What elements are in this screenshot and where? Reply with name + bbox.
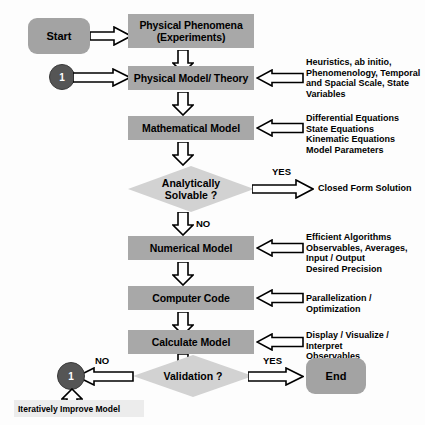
solvable-no-label: NO (196, 218, 210, 229)
end-terminator[interactable]: End (306, 358, 366, 394)
flowchart-canvas: Start Physical Phenomena (Experiments) 1… (0, 0, 425, 425)
iteratively-improve-model-label: Iteratively Improve Model (18, 404, 120, 414)
analytically-solvable-line1: Analytically (162, 177, 220, 189)
start-terminator[interactable]: Start (28, 18, 90, 54)
numerical-model-label: Numerical Model (150, 242, 233, 254)
arrow-parallelization-to-computer-code (256, 289, 304, 307)
physical-model-label: Physical Model/ Theory (134, 72, 249, 84)
arrow-connector-to-physical-model (73, 68, 131, 87)
numerical-model-box[interactable]: Numerical Model (128, 236, 254, 260)
iteratively-improve-model-caption: Iteratively Improve Model (14, 400, 144, 417)
start-label: Start (46, 30, 71, 42)
physical-phenomena-line2: (Experiments) (139, 31, 242, 43)
arrow-start-to-phenomena (90, 26, 132, 46)
calculate-model-inputs-annotation: Display / Visualize / Interpret Observab… (306, 330, 425, 362)
validation-decision[interactable]: Validation ? (133, 355, 253, 397)
connector-top-label: 1 (59, 72, 65, 83)
arrow-solvable-no-to-numerical-model (172, 212, 194, 236)
analytically-solvable-line2: Solvable ? (162, 189, 220, 201)
arrow-math-model-to-solvable (172, 142, 194, 166)
computer-code-label: Computer Code (152, 292, 229, 304)
arrow-algorithms-to-numerical-model (256, 239, 304, 257)
computer-code-box[interactable]: Computer Code (128, 286, 254, 310)
connector-circle-bottom[interactable]: 1 (57, 362, 85, 390)
arrow-validation-yes-to-end (248, 367, 304, 386)
arrow-heuristics-to-physical-model (256, 69, 304, 87)
end-label: End (326, 370, 347, 382)
solvable-yes-label: YES (272, 166, 291, 177)
arrow-numerical-model-to-computer-code (172, 262, 194, 286)
arrow-display-to-calculate-model (256, 333, 304, 351)
mathematical-model-label: Mathematical Model (142, 122, 240, 134)
mathematical-model-inputs-annotation: Differential Equations State Equations K… (306, 113, 424, 155)
analytically-solvable-decision[interactable]: Analytically Solvable ? (128, 166, 254, 212)
validation-label: Validation ? (164, 370, 223, 382)
arrow-solvable-yes-to-closed-form (252, 179, 314, 199)
calculate-model-box[interactable]: Calculate Model (128, 330, 254, 354)
computer-code-inputs-annotation: Parallelization / Optimization (306, 293, 425, 315)
closed-form-solution-label: Closed Form Solution (318, 183, 424, 194)
connector-circle-top[interactable]: 1 (49, 64, 75, 90)
arrow-equations-to-math-model (256, 119, 304, 137)
physical-phenomena-line1: Physical Phenomena (139, 19, 242, 31)
physical-phenomena-box[interactable]: Physical Phenomena (Experiments) (128, 14, 254, 48)
numerical-model-inputs-annotation: Efficient Algorithms Observables, Averag… (306, 232, 424, 274)
validation-no-label: NO (95, 355, 109, 366)
calculate-model-label: Calculate Model (152, 336, 230, 348)
mathematical-model-box[interactable]: Mathematical Model (128, 116, 254, 140)
physical-model-inputs-annotation: Heuristics, ab initio, Phenomenology, Te… (306, 57, 424, 99)
validation-yes-label: YES (263, 355, 282, 366)
connector-bottom-label: 1 (68, 371, 74, 382)
arrow-physical-model-to-math-model (172, 92, 194, 116)
physical-model-box[interactable]: Physical Model/ Theory (128, 66, 254, 90)
